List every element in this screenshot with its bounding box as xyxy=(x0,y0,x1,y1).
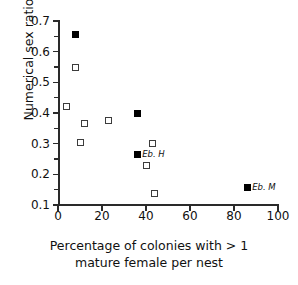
data-point-filled xyxy=(134,151,141,158)
x-axis-label-line-2: mature female per nest xyxy=(0,254,298,271)
y-tick-minor xyxy=(54,97,58,99)
y-tick xyxy=(53,174,58,176)
y-tick-label: 0.6 xyxy=(4,46,50,58)
scatter-plot-figure: Numerical sex ratio 0.10.20.30.40.50.60.… xyxy=(0,0,298,285)
data-point-open xyxy=(149,140,156,147)
x-axis-label: Percentage of colonies with > 1 mature f… xyxy=(0,237,298,271)
x-tick-label: 100 xyxy=(258,210,298,222)
y-tick xyxy=(53,143,58,145)
y-tick-label: 0.7 xyxy=(4,15,50,27)
y-tick-minor xyxy=(54,128,58,130)
data-point-filled xyxy=(72,31,79,38)
y-tick xyxy=(53,112,58,114)
y-tick-label: 0.2 xyxy=(4,168,50,180)
x-axis-label-line-1: Percentage of colonies with > 1 xyxy=(0,237,298,254)
y-tick-minor xyxy=(54,189,58,191)
x-tick-label: 20 xyxy=(82,210,122,222)
y-tick xyxy=(53,20,58,22)
y-tick-label: 0.3 xyxy=(4,138,50,150)
x-tick-label: 40 xyxy=(126,210,166,222)
y-tick-label: 0.5 xyxy=(4,76,50,88)
x-tick-label: 60 xyxy=(170,210,210,222)
x-tick-label: 80 xyxy=(214,210,254,222)
data-point-open xyxy=(143,162,150,169)
x-axis-line xyxy=(58,204,279,206)
x-tick-label: 0 xyxy=(38,210,78,222)
data-point-open xyxy=(77,139,84,146)
data-point-open xyxy=(72,64,79,71)
data-point-open xyxy=(63,103,70,110)
data-point-annotation: Eb. H xyxy=(142,150,165,159)
data-point-annotation: Eb. M xyxy=(252,183,276,192)
data-point-filled xyxy=(244,184,251,191)
data-point-open xyxy=(81,120,88,127)
y-tick-minor xyxy=(54,36,58,38)
y-tick-label: 0.4 xyxy=(4,107,50,119)
y-tick-minor xyxy=(54,66,58,68)
y-tick xyxy=(53,82,58,84)
y-axis-line xyxy=(58,20,60,206)
y-tick-minor xyxy=(54,158,58,160)
data-point-open xyxy=(151,190,158,197)
data-point-filled xyxy=(134,110,141,117)
y-tick xyxy=(53,51,58,53)
data-point-open xyxy=(105,117,112,124)
